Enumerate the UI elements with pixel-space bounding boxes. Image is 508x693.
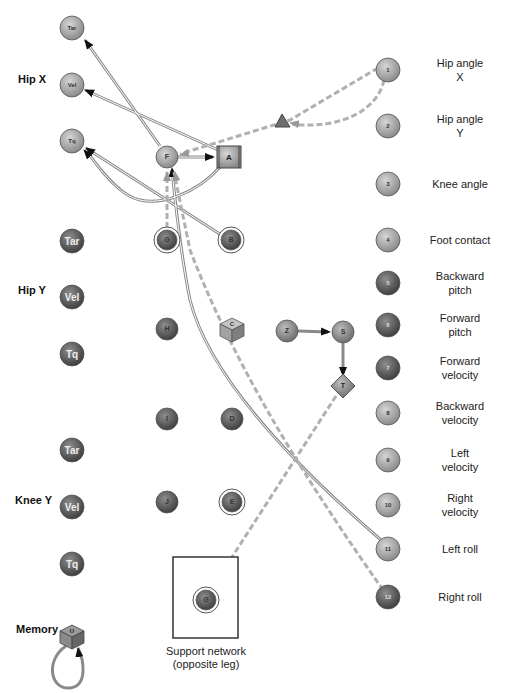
sensor-label-line1: Left roll — [415, 542, 505, 556]
sensor-label-line2: Y — [415, 126, 505, 140]
node-t-label: T — [341, 382, 346, 389]
sensor-label-line2: velocity — [415, 413, 505, 427]
support-node-g[interactable]: G — [193, 587, 219, 613]
sensor-node-8[interactable]: 8 — [376, 401, 400, 425]
support-caption-line2: (opposite leg) — [150, 658, 262, 671]
sensor-label-line1: Left — [415, 446, 505, 460]
motor-node-hipy-tq-label: Tq — [66, 349, 78, 360]
node-d[interactable]: D — [221, 408, 243, 430]
sensor-label-line1: Right — [415, 491, 505, 505]
node-b-label: B — [228, 236, 233, 243]
sensor-label-9: Leftvelocity — [415, 446, 505, 474]
sensor-label-10: Rightvelocity — [415, 491, 505, 519]
node-e-label: E — [230, 498, 235, 505]
sensor-label-7: Forwardvelocity — [415, 354, 505, 382]
node-i[interactable]: I — [156, 408, 178, 430]
sensor-node-4[interactable]: 4 — [376, 228, 400, 252]
sensor-node-7[interactable]: 7 — [376, 356, 400, 380]
sensor-label-line2: X — [415, 70, 505, 84]
node-s[interactable]: S — [332, 321, 354, 343]
sensor-label-line1: Foot contact — [415, 233, 505, 247]
node-i-label: I — [166, 415, 168, 422]
node-s-label: S — [341, 328, 346, 335]
motor-node-hipx-tar[interactable]: Tar — [60, 16, 84, 40]
arrowheads — [84, 40, 343, 376]
sensor-label-12: Right roll — [415, 590, 505, 604]
sensor-label-line1: Hip angle — [415, 112, 505, 126]
motor-node-knee-tq[interactable]: Tq — [60, 552, 84, 576]
solid-edges — [85, 40, 381, 540]
node-a[interactable]: A — [217, 146, 241, 168]
group-label-knee-y: Knee Y — [15, 494, 52, 506]
support-node-g-label: G — [203, 596, 209, 603]
node-g-label: G — [164, 236, 170, 243]
motor-node-hipy-vel[interactable]: Vel — [60, 285, 84, 309]
solid-edges-inner — [85, 40, 381, 540]
node-b[interactable]: B — [218, 227, 244, 253]
memory-loop-edge — [52, 646, 83, 688]
memory-cube-label: U — [70, 628, 74, 634]
motor-node-hipx-tq[interactable]: Tq — [60, 129, 84, 153]
sensor-label-line1: Hip angle — [415, 56, 505, 70]
motor-node-hipy-tar-label: Tar — [65, 236, 80, 247]
node-j[interactable]: J — [156, 491, 178, 513]
node-z[interactable]: Z — [276, 320, 298, 342]
sensor-label-1: Hip angleX — [415, 56, 505, 84]
sensor-node-10[interactable]: 10 — [376, 493, 400, 517]
sensor-node-5[interactable]: 5 — [376, 271, 400, 295]
motor-node-hipx-tq-label: Tq — [68, 138, 76, 144]
sensor-label-line2: pitch — [415, 325, 505, 339]
node-c[interactable]: C — [220, 318, 244, 342]
motor-node-knee-tq-label: Tq — [66, 559, 78, 570]
sensor-label-5: Backwardpitch — [415, 269, 505, 297]
node-z-label: Z — [285, 327, 290, 334]
sensor-label-line2: velocity — [415, 460, 505, 474]
motor-node-hipy-tq[interactable]: Tq — [60, 342, 84, 366]
node-h-label: H — [164, 325, 169, 332]
node-f[interactable]: F — [156, 146, 178, 168]
motor-node-hipx-tar-label: Tar — [68, 25, 78, 31]
sensor-label-line2: pitch — [415, 283, 505, 297]
node-a-label: A — [226, 153, 232, 162]
motor-node-hipx-vel-label: Vel — [68, 82, 77, 88]
sensor-node-1[interactable]: 1 — [376, 58, 400, 82]
motor-node-hipx-vel[interactable]: Vel — [60, 73, 84, 97]
group-label-hip-y: Hip Y — [18, 284, 46, 296]
sensor-label-line1: Backward — [415, 399, 505, 413]
node-t[interactable]: T — [331, 374, 355, 398]
motor-node-knee-tar[interactable]: Tar — [60, 438, 84, 462]
motor-node-knee-tar-label: Tar — [65, 445, 80, 456]
node-h[interactable]: H — [156, 318, 178, 340]
sensor-label-line2: velocity — [415, 368, 505, 382]
sensor-label-2: Hip angleY — [415, 112, 505, 140]
sensor-node-2[interactable]: 2 — [376, 114, 400, 138]
sensor-node-10-label: 10 — [385, 502, 392, 508]
sensor-node-11[interactable]: 11 — [376, 537, 400, 561]
sensor-label-8: Backwardvelocity — [415, 399, 505, 427]
memory-cube[interactable]: U — [60, 625, 84, 649]
sensor-node-12[interactable]: 12 — [376, 585, 400, 609]
sensor-label-line1: Forward — [415, 354, 505, 368]
node-e[interactable]: E — [219, 489, 245, 515]
motor-node-hipy-tar[interactable]: Tar — [60, 229, 84, 253]
node-f-label: F — [165, 153, 170, 160]
sensor-label-line1: Knee angle — [415, 177, 505, 191]
sensor-label-line1: Backward — [415, 269, 505, 283]
motor-node-knee-vel[interactable]: Vel — [60, 495, 84, 519]
node-d-label: D — [229, 415, 234, 422]
sensor-node-11-label: 11 — [385, 546, 392, 552]
sensor-label-6: Forwardpitch — [415, 311, 505, 339]
support-caption: Support network (opposite leg) — [150, 645, 262, 671]
support-caption-line1: Support network — [150, 645, 262, 658]
sensor-label-line1: Forward — [415, 311, 505, 325]
sensor-node-6[interactable]: 6 — [376, 313, 400, 337]
motor-node-knee-vel-label: Vel — [65, 502, 80, 513]
node-j-label: J — [165, 498, 169, 505]
group-label-memory: Memory — [16, 623, 58, 635]
sensor-node-9[interactable]: 9 — [376, 448, 400, 472]
motor-node-hipy-vel-label: Vel — [65, 292, 80, 303]
sensor-node-3[interactable]: 3 — [376, 172, 400, 196]
sensor-label-11: Left roll — [415, 542, 505, 556]
nodes-layer: TarVelTqTarVelTqTarVelTqFAGBHCZSTIDJE123… — [60, 16, 400, 649]
node-g[interactable]: G — [154, 227, 180, 253]
